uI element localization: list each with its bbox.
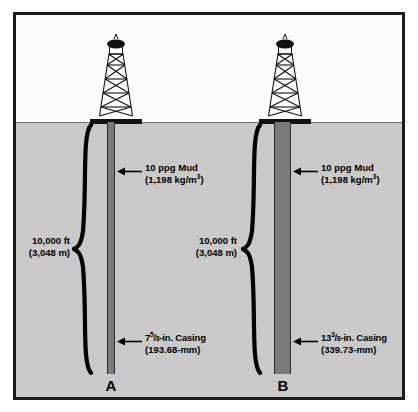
well-letter-a: A <box>96 377 126 394</box>
depth-metric-a: (3,048 m) <box>29 247 70 258</box>
casing-size-metric-b: (339.73-mm) <box>321 344 376 355</box>
derrick-b-icon <box>261 31 309 123</box>
depth-brace-a <box>72 123 94 375</box>
depth-imperial-b: 10,000 ft <box>199 235 237 246</box>
mud-arrow-b <box>293 167 319 176</box>
depth-brace-b <box>241 123 263 375</box>
mud-density-b: 10 ppg Mud <box>321 162 374 173</box>
depth-imperial-a: 10,000 ft <box>32 235 70 246</box>
well-letter-b: B <box>268 377 298 394</box>
mud-arrow-a <box>117 167 143 176</box>
casing-label-b: 133/8-in. Casing (339.73-mm) <box>321 332 387 355</box>
casing-size-a: 75/8-in. Casing <box>145 332 206 343</box>
casing-size-b: 133/8-in. Casing <box>321 332 387 343</box>
mud-density-metric-b: (1,198 kg/m3) <box>321 174 380 185</box>
derrick-a-icon <box>92 31 140 123</box>
casing-label-a: 75/8-in. Casing (193.68-mm) <box>145 332 206 355</box>
casing-a <box>107 122 115 374</box>
depth-metric-b: (3,048 m) <box>196 247 237 258</box>
casing-size-metric-a: (193.68-mm) <box>145 344 200 355</box>
mud-label-b: 10 ppg Mud (1,198 kg/m3) <box>321 162 380 185</box>
well-comparison-diagram: 10,000 ft (3,048 m) 10 ppg Mud (1,198 kg… <box>0 0 418 412</box>
mud-density-a: 10 ppg Mud <box>145 162 198 173</box>
casing-arrow-a <box>117 337 143 346</box>
casing-arrow-b <box>293 337 319 346</box>
mud-label-a: 10 ppg Mud (1,198 kg/m3) <box>145 162 204 185</box>
mud-density-metric-a: (1,198 kg/m3) <box>145 174 204 185</box>
sky-region <box>16 15 402 122</box>
depth-label-a: 10,000 ft (3,048 m) <box>16 235 70 258</box>
derrick-a-substructure <box>90 119 142 124</box>
casing-b <box>274 122 291 374</box>
depth-label-b: 10,000 ft (3,048 m) <box>181 235 237 258</box>
diagram-frame: 10,000 ft (3,048 m) 10 ppg Mud (1,198 kg… <box>13 12 405 400</box>
